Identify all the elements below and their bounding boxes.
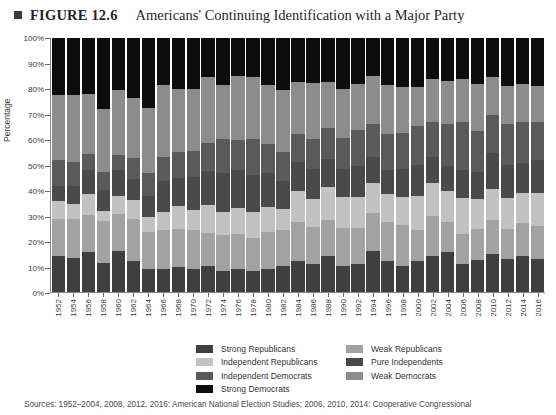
bar-segment <box>426 122 439 158</box>
x-axis-tick-label: 1992 <box>353 299 362 317</box>
bar-segment <box>201 38 214 76</box>
x-axis-tick: 1964 <box>140 293 155 341</box>
x-axis-tick-mark <box>298 293 299 297</box>
bar-segment <box>142 196 155 217</box>
bar-segment <box>321 38 334 82</box>
bar-segment <box>396 266 409 292</box>
bar-segment <box>112 196 125 214</box>
bar-segment <box>201 143 214 171</box>
bar-segment <box>127 261 140 292</box>
stacked-bar <box>351 38 364 292</box>
bar-segment <box>306 169 319 199</box>
bar-segment <box>366 251 379 292</box>
bar-segment <box>261 173 274 207</box>
bar-segment <box>336 169 349 197</box>
bar-segment <box>201 205 214 233</box>
bar-segment <box>291 82 304 134</box>
bar-segment <box>531 259 544 292</box>
legend-swatch-icon <box>196 385 213 393</box>
y-axis-tick-label: 60% <box>28 136 44 145</box>
bar-segment <box>366 38 379 76</box>
bar-segment <box>336 89 349 138</box>
stacked-bar <box>276 38 289 292</box>
x-axis-tick-mark <box>508 293 509 297</box>
legend-label: Independent Democrats <box>221 371 312 381</box>
x-axis-tick-label: 1974 <box>218 299 227 317</box>
bar-segment <box>471 199 484 228</box>
bar-segment <box>456 79 469 122</box>
bar-segment <box>426 256 439 292</box>
bar-segment <box>187 177 200 210</box>
bar-segment <box>486 115 499 153</box>
bar-segment <box>142 108 155 173</box>
bar-segment <box>381 85 394 134</box>
bar-segment <box>157 212 170 230</box>
bar-segment <box>486 220 499 253</box>
x-axis-tick: 1972 <box>200 293 215 341</box>
stacked-bar <box>246 38 259 292</box>
stacked-bar <box>486 38 499 292</box>
stacked-bar <box>67 38 80 292</box>
bar-segment <box>291 134 304 163</box>
bar-segment <box>531 86 544 122</box>
y-axis-tick-label: 90% <box>28 59 44 68</box>
figure-title: Americans' Continuing Identification wit… <box>136 7 465 24</box>
bar-segment <box>201 233 214 266</box>
bar-segment <box>456 264 469 292</box>
x-axis-tick-label: 2006 <box>458 299 467 317</box>
bar-segment <box>52 186 65 202</box>
x-axis-tick-mark <box>223 293 224 297</box>
bar-segment <box>112 155 125 171</box>
x-axis-tick-mark <box>193 293 194 297</box>
chart-legend: Strong RepublicansWeak RepublicansIndepe… <box>196 342 526 394</box>
bar-segment <box>321 82 334 128</box>
stacked-bar <box>261 38 274 292</box>
bar-segment <box>531 226 544 259</box>
bar-segment <box>231 38 244 76</box>
x-axis-tick-mark <box>208 293 209 297</box>
x-axis-tick-mark <box>88 293 89 297</box>
legend-swatch-icon <box>346 345 363 353</box>
bar-segment <box>97 109 110 172</box>
bar-segment <box>441 81 454 124</box>
y-axis-tick-label: 30% <box>28 212 44 221</box>
legend-label: Weak Democrats <box>371 371 436 381</box>
x-axis-tick: 2006 <box>455 293 470 341</box>
bar-segment <box>82 215 95 252</box>
bar-segment <box>231 76 244 140</box>
bar-segment <box>261 38 274 85</box>
bar-segment <box>471 131 484 173</box>
x-axis-tick-mark <box>313 293 314 297</box>
x-axis-tick-label: 1962 <box>128 299 137 317</box>
bar-segment <box>127 38 140 98</box>
bar-segment <box>82 154 95 170</box>
x-axis-tick: 2004 <box>440 293 455 341</box>
x-axis-tick-label: 1982 <box>278 299 287 317</box>
stacked-bar <box>426 38 439 292</box>
bar-segment <box>187 230 200 268</box>
bar-segment <box>306 227 319 265</box>
bar-segment <box>231 140 244 170</box>
x-axis-tick-mark <box>373 293 374 297</box>
bar-segment <box>216 139 229 173</box>
legend-item: Independent Democrats <box>196 369 346 383</box>
bar-segment <box>157 85 170 158</box>
bar-segment <box>411 87 424 126</box>
bar-segment <box>516 122 529 163</box>
x-axis-tick-mark <box>418 293 419 297</box>
bar-segment <box>112 38 125 90</box>
bar-segment <box>261 144 274 173</box>
bar-segment <box>201 77 214 144</box>
bar-segment <box>396 225 409 266</box>
x-axis-tick-mark <box>358 293 359 297</box>
bar-segment <box>486 77 499 115</box>
bar-segment <box>396 133 409 169</box>
x-axis-tick-label: 1954 <box>68 299 77 317</box>
legend-swatch-icon <box>196 345 213 353</box>
bar-segment <box>157 38 170 85</box>
bar-segment <box>486 153 499 189</box>
bar-segment <box>516 193 529 223</box>
bar-segment <box>471 38 484 84</box>
bar-segment <box>471 84 484 130</box>
bar-segment <box>486 38 499 76</box>
